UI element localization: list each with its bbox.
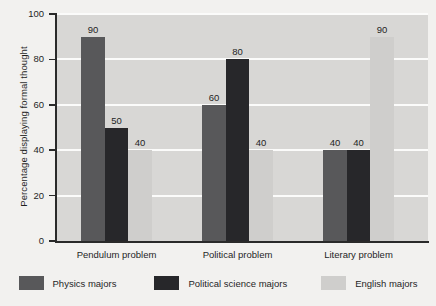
bar-chart-figure: Percentage displaying formal thought 020… [0,0,436,306]
bar-value-label: 60 [192,92,236,103]
legend-item: English majors [321,276,417,290]
legend-swatch [321,276,346,290]
x-axis-line [55,241,429,243]
legend-item: Physics majors [19,276,117,290]
bar-value-label: 90 [71,24,115,35]
bar-value-label: 40 [118,137,162,148]
y-tick-label: 60 [0,99,44,110]
y-tick-label: 20 [0,190,44,201]
legend-label: Political science majors [188,278,287,289]
bar [249,150,273,241]
legend-swatch [19,276,44,290]
bar [347,150,371,241]
bar-value-label: 80 [216,46,260,57]
bar-value-label: 40 [337,137,381,148]
y-tick-label: 100 [0,8,44,19]
bar [323,150,347,241]
bar-value-label: 50 [95,115,139,126]
bar [202,105,226,241]
y-tick-mark [49,104,56,106]
y-axis-title: Percentage displaying formal thought [18,7,29,247]
chart-legend: Physics majorsPolitical science majorsEn… [0,276,436,290]
y-tick-label: 0 [0,235,44,246]
bar [128,150,152,241]
legend-label: English majors [355,278,417,289]
y-axis-line [55,13,57,242]
y-tick-label: 80 [0,53,44,64]
x-axis-category-label: Pendulum problem [47,249,187,260]
y-tick-mark [49,59,56,61]
y-tick-mark [49,240,56,242]
y-tick-mark [49,195,56,197]
y-tick-mark [49,149,56,151]
y-tick-label: 40 [0,144,44,155]
gridline [56,13,428,15]
bar [226,59,250,241]
legend-swatch [154,276,179,290]
y-tick-mark [49,13,56,15]
legend-item: Political science majors [154,276,287,290]
legend-label: Physics majors [53,278,117,289]
x-axis-category-label: Literary problem [289,249,429,260]
bar [81,37,105,241]
bar-value-label: 90 [360,24,404,35]
bar-value-label: 40 [239,137,283,148]
x-axis-category-label: Political problem [168,249,308,260]
